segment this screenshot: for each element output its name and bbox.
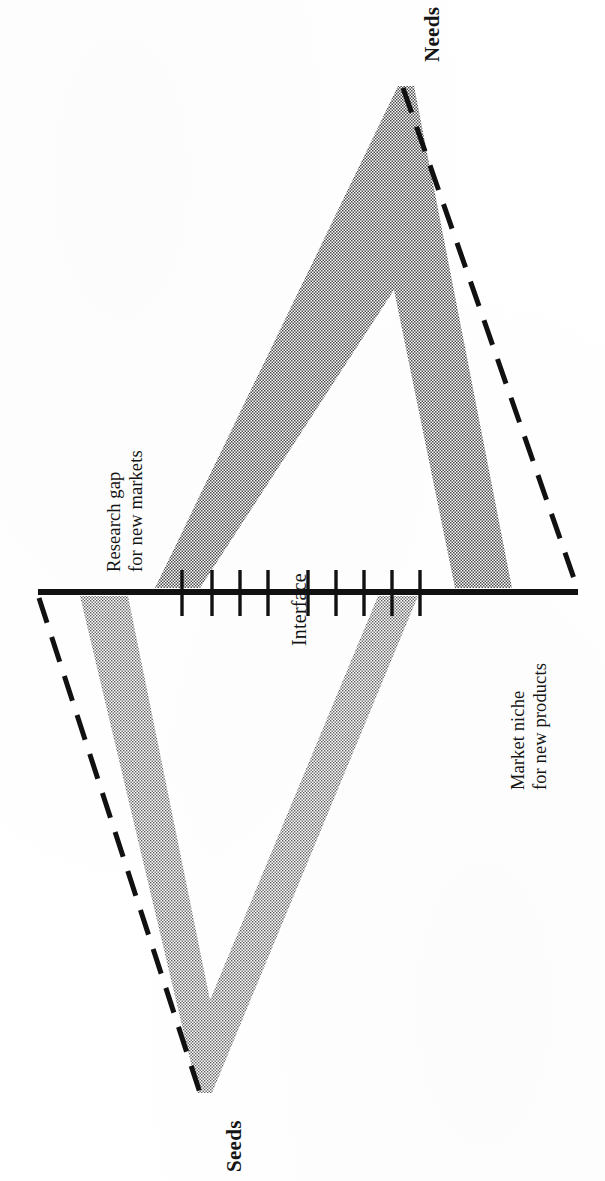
label-research-gap-line2: for new markets: [126, 450, 148, 572]
needs-stipple-band: [155, 86, 512, 588]
label-market-niche: Market niche for new products: [508, 663, 552, 790]
label-seeds: Seeds: [222, 1120, 247, 1172]
label-research-gap: Research gap for new markets: [104, 450, 148, 572]
label-market-niche-line1: Market niche: [508, 663, 530, 790]
seeds-stipple-band: [80, 596, 418, 1093]
seeds-triangle-group: [39, 596, 418, 1093]
label-research-gap-line1: Research gap: [104, 450, 126, 572]
needs-triangle-group: [155, 86, 578, 590]
label-interface: Interface: [288, 573, 312, 646]
label-market-niche-line2: for new products: [530, 663, 552, 790]
figure-page: Needs Seeds Interface Research gap for n…: [0, 0, 605, 1181]
label-needs: Needs: [420, 7, 445, 62]
